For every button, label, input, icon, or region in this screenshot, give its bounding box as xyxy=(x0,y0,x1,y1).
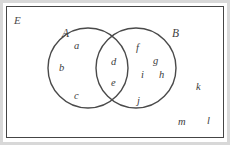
element-a: a xyxy=(74,41,79,52)
element-j: j xyxy=(137,96,140,107)
circle-set-b xyxy=(96,28,176,108)
element-i: i xyxy=(141,70,144,81)
venn-circles xyxy=(0,0,230,145)
element-h: h xyxy=(159,70,164,81)
set-label-a: A xyxy=(62,28,69,40)
element-g: g xyxy=(153,56,158,67)
element-b: b xyxy=(59,63,64,74)
element-m: m xyxy=(178,117,186,128)
element-f: f xyxy=(136,43,139,54)
element-l: l xyxy=(207,116,210,127)
venn-diagram-figure: E A B a b c d e f g i h j k m l xyxy=(0,0,230,145)
element-e: e xyxy=(111,78,116,89)
element-d: d xyxy=(111,57,116,68)
element-c: c xyxy=(74,91,79,102)
set-label-b: B xyxy=(172,28,179,40)
element-k: k xyxy=(196,82,201,93)
universal-set-label: E xyxy=(14,15,21,26)
